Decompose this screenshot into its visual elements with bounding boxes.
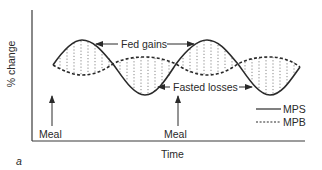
fed-gains-label: Fed gains — [121, 38, 167, 50]
legend-lines — [256, 109, 281, 122]
legend-mpb-label: MPB — [283, 116, 306, 128]
diagram-canvas — [0, 0, 322, 170]
mpb-curve — [53, 57, 300, 75]
y-axis-label: % change — [5, 24, 17, 104]
legend-mps-label: MPS — [283, 103, 306, 115]
x-axis-label: Time — [161, 148, 184, 160]
panel-label: a — [16, 155, 22, 167]
fasted-losses-label: Fasted losses — [173, 81, 238, 93]
meal-label-1: Meal — [39, 128, 62, 140]
meal-arrows — [52, 96, 178, 126]
meal-label-2: Meal — [164, 128, 187, 140]
